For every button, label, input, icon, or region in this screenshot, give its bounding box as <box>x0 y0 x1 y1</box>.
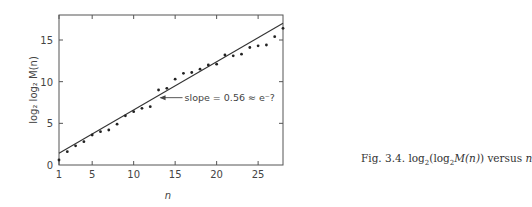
data-point <box>132 110 135 113</box>
y-tick-label: 0 <box>47 160 53 171</box>
data-point <box>232 54 235 57</box>
caption-n: n <box>525 152 532 164</box>
caption-prefix: Fig. 3.4. <box>361 152 408 164</box>
data-point <box>207 64 210 67</box>
data-point <box>74 144 77 147</box>
caption-close: ) versus <box>480 152 525 164</box>
data-point <box>99 130 102 133</box>
y-tick-label: 10 <box>40 77 53 88</box>
data-point <box>91 134 94 137</box>
data-point <box>190 71 193 74</box>
arrow-icon <box>160 95 166 100</box>
x-axis-label: n <box>165 190 171 201</box>
x-tick-label: 15 <box>169 169 182 180</box>
y-tick-label: 5 <box>47 118 53 129</box>
slope-annotation: slope = 0.56 ≈ e⁻? <box>160 92 275 103</box>
data-point <box>141 107 144 110</box>
x-tick-label: 1 <box>56 169 62 180</box>
data-point <box>58 159 61 162</box>
x-tick-label: 20 <box>210 169 223 180</box>
caption-open: (log <box>429 152 450 164</box>
data-point <box>174 78 177 81</box>
data-point <box>107 129 110 132</box>
caption-log: log <box>408 152 424 164</box>
y-tick-label: 15 <box>40 35 53 46</box>
data-point <box>273 35 276 38</box>
data-point <box>224 54 227 57</box>
data-point <box>149 105 152 108</box>
y-axis-label: log₂ log₂ M(n) <box>28 56 39 124</box>
data-point <box>124 114 127 117</box>
x-tick-label: 5 <box>89 169 95 180</box>
data-point <box>82 140 85 143</box>
caption-mn: M(n) <box>454 152 480 164</box>
slope-label: slope = 0.56 ≈ e⁻? <box>185 92 275 103</box>
data-point <box>282 27 285 30</box>
data-point <box>240 53 243 56</box>
data-point <box>157 89 160 92</box>
data-point <box>116 123 119 126</box>
data-point <box>165 87 168 90</box>
data-point <box>248 46 251 49</box>
data-point <box>182 72 185 75</box>
figure-caption: Fig. 3.4. log2(log2M(n)) versus n <box>361 152 532 167</box>
plot-frame <box>59 15 283 165</box>
x-tick-label: 25 <box>252 169 265 180</box>
data-point <box>215 63 218 66</box>
data-point <box>66 150 69 153</box>
data-point <box>265 44 268 47</box>
data-point <box>199 68 202 71</box>
data-point <box>257 44 260 47</box>
x-tick-label: 10 <box>127 169 140 180</box>
